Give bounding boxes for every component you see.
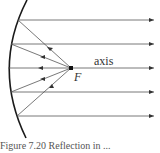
reflected-rays <box>8 20 154 116</box>
axis-label: axis <box>94 54 113 69</box>
concave-mirror <box>9 0 27 138</box>
ray-arrowheads <box>38 47 54 88</box>
focus-label: F <box>74 70 81 85</box>
figure-caption: Figure 7.20 Reflection in ... <box>0 140 111 151</box>
arrowhead-icon <box>49 84 54 88</box>
incident-ray <box>11 44 71 68</box>
focus-point <box>69 66 73 70</box>
incident-ray <box>11 68 71 92</box>
arrowhead-icon <box>38 66 43 70</box>
